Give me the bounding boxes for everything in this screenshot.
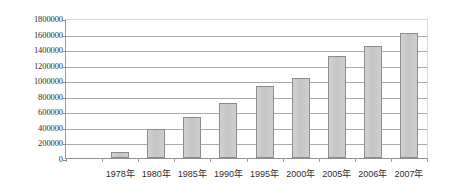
- x-axis-tick-mark: [427, 158, 428, 162]
- x-axis-tick-mark: [210, 158, 211, 162]
- bar: [400, 33, 418, 158]
- x-axis-tick-mark: [174, 158, 175, 162]
- bar: [328, 56, 346, 158]
- y-axis-tick-label: 1200000: [34, 61, 63, 70]
- x-axis-tick-label: 2005年: [322, 168, 351, 180]
- x-axis: 1978年1980年1985年1990年1995年2000年2005年2006年…: [66, 168, 427, 184]
- bar: [364, 46, 382, 158]
- y-axis-tick-label: 1600000: [34, 30, 63, 39]
- y-axis-tick-label: 600000: [38, 108, 63, 117]
- x-axis-tick-mark: [66, 158, 67, 162]
- y-axis-tick-label: 800000: [38, 92, 63, 101]
- x-axis-tick-label: 2000年: [286, 168, 315, 180]
- x-axis-tick-label: 2006年: [358, 168, 387, 180]
- bar: [292, 78, 310, 158]
- bar-chart: 0200000400000600000800000100000012000001…: [0, 0, 450, 195]
- x-axis-tick-mark: [138, 158, 139, 162]
- x-axis-tick-mark: [102, 158, 103, 162]
- y-axis-tick-label: 1400000: [34, 46, 63, 55]
- y-axis-tick-label: 1000000: [34, 77, 63, 86]
- x-axis-tick-label: 1985年: [178, 168, 207, 180]
- x-axis-ticks: [66, 158, 427, 163]
- bar-series: [66, 19, 427, 158]
- y-axis-tick-label: 0: [59, 155, 63, 164]
- x-axis-tick-label: 1978年: [106, 168, 135, 180]
- bar: [183, 117, 201, 158]
- bar: [147, 129, 165, 158]
- bar: [219, 103, 237, 158]
- x-axis-tick-label: 2007年: [394, 168, 423, 180]
- y-axis-tick-label: 1800000: [34, 15, 63, 24]
- y-axis: 0200000400000600000800000100000012000001…: [0, 13, 63, 159]
- bar: [256, 86, 274, 158]
- x-axis-tick-label: 1990年: [214, 168, 243, 180]
- x-axis-tick-mark: [283, 158, 284, 162]
- x-axis-tick-mark: [391, 158, 392, 162]
- x-axis-tick-label: 1980年: [142, 168, 171, 180]
- x-axis-tick-mark: [355, 158, 356, 162]
- x-axis-tick-label: 1995年: [250, 168, 279, 180]
- x-axis-tick-mark: [247, 158, 248, 162]
- y-axis-tick-label: 200000: [38, 139, 63, 148]
- x-axis-tick-mark: [319, 158, 320, 162]
- y-axis-tick-label: 400000: [38, 123, 63, 132]
